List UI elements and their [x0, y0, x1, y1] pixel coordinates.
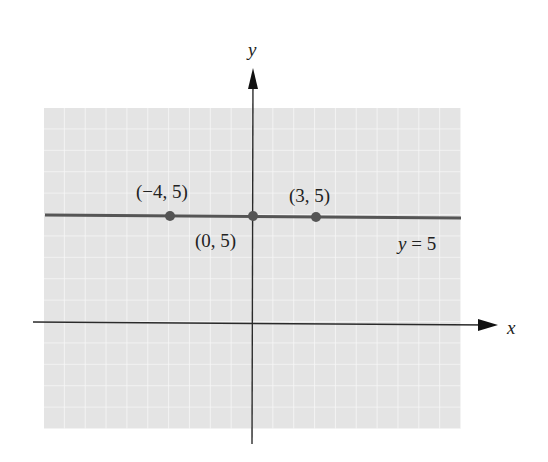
point-neg4-5 [165, 211, 175, 221]
point-label-3-5: (3, 5) [289, 185, 330, 207]
coordinate-plane: x y y = 5 (−4, 5) (0, 5) (3, 5) [0, 0, 548, 462]
x-axis-label: x [506, 317, 516, 338]
y-axis-label: y [246, 39, 257, 60]
x-axis-arrow-icon [478, 319, 498, 331]
line-label: y = 5 [396, 233, 436, 254]
point-0-5 [248, 211, 258, 221]
y-axis-arrow-icon [248, 68, 258, 89]
point-3-5 [311, 212, 321, 222]
point-label-neg4-5: (−4, 5) [136, 181, 188, 203]
point-label-0-5: (0, 5) [195, 230, 236, 252]
